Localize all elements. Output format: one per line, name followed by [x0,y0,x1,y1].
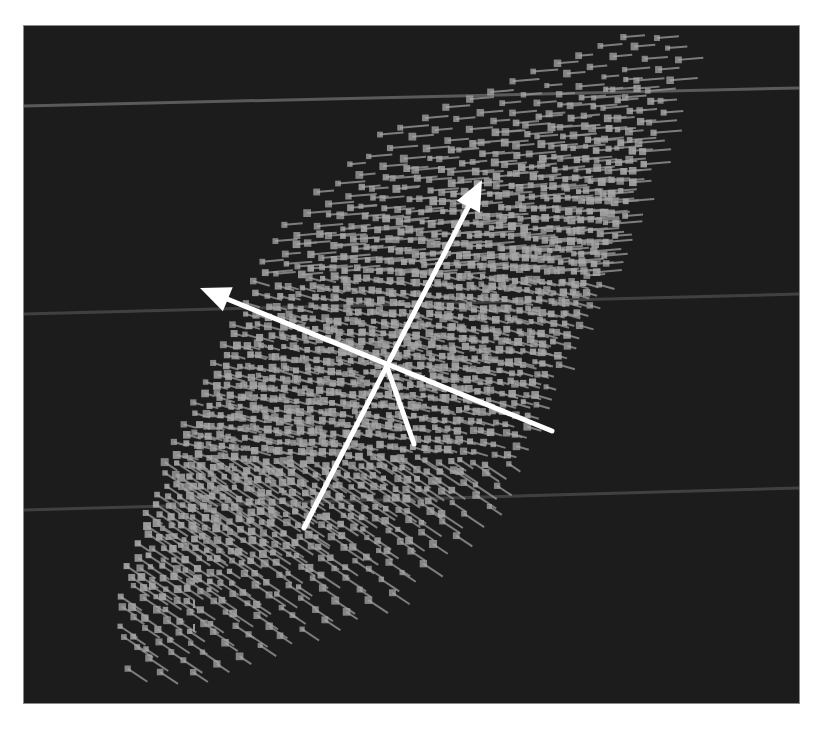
lattice-visualization [24,26,799,703]
scanline [24,88,799,106]
figure-frame [24,26,799,703]
point-lattice [117,34,703,684]
